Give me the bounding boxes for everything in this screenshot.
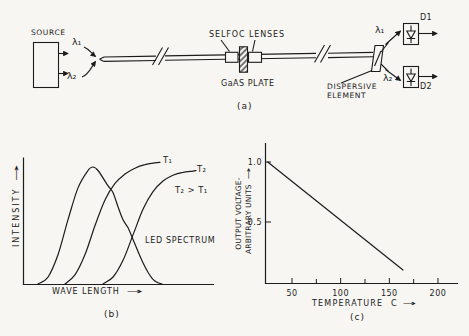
caption-a: (a) bbox=[237, 101, 253, 111]
temperature-axis-label-text: TEMPERATURE C bbox=[312, 299, 398, 308]
selfoc-lens-right bbox=[249, 52, 262, 62]
gaas-plate bbox=[240, 47, 248, 72]
lambda1-source-label: λ₁ bbox=[72, 37, 81, 48]
figure: 501001502001.00.5 SOURCE λ₁ λ₂ SELFOC LE… bbox=[0, 0, 469, 336]
output-voltage-axis-label-line1: OUTPUT VOLTAGE- bbox=[234, 152, 244, 276]
intensity-axis-arrow-icon: → bbox=[12, 165, 21, 181]
detector-d1-label: D1 bbox=[420, 13, 432, 22]
output-voltage-axis-label: OUTPUT VOLTAGE- ARBITRARY UNITS→ bbox=[234, 152, 253, 276]
curve-t2-label: T₂ bbox=[197, 165, 206, 175]
source-box bbox=[34, 43, 59, 88]
curve-t1-label: T₁ bbox=[163, 156, 172, 166]
t2-greater-t1-annotation: T₂ > T₁ bbox=[175, 186, 208, 196]
intensity-axis-label-text: INTENSITY bbox=[12, 188, 21, 247]
output-voltage-axis-label-line2-text: ARBITRARY UNITS bbox=[243, 184, 252, 254]
source-label: SOURCE bbox=[31, 29, 66, 38]
detector-d2-label: D2 bbox=[420, 82, 432, 91]
temperature-axis-arrow-icon: → bbox=[403, 299, 416, 308]
wavelength-axis-label-text: WAVE LENGTH bbox=[52, 287, 120, 296]
x-tick-label: 200 bbox=[430, 289, 447, 298]
x-tick-label: 50 bbox=[286, 289, 297, 298]
x-tick-label: 100 bbox=[332, 289, 349, 298]
curve-output voltage bbox=[268, 162, 403, 270]
lambda1-coupling-curve bbox=[84, 47, 96, 57]
caption-c: (c) bbox=[350, 312, 365, 322]
output-voltage-axis-label-line2: ARBITRARY UNITS→ bbox=[243, 152, 253, 276]
panel-c-ticks: 501001502001.00.5 bbox=[248, 158, 447, 298]
panel-b-axes bbox=[24, 158, 215, 285]
x-tick-label: 150 bbox=[381, 289, 398, 298]
selfoc-leader-right bbox=[253, 40, 256, 52]
fiber-input-tip bbox=[100, 57, 105, 61]
wavelength-axis-arrow-icon: → bbox=[127, 287, 143, 296]
lambda2-dispersed-label: λ₂ bbox=[383, 73, 392, 84]
gaas-plate-label: GaAS PLATE bbox=[221, 79, 274, 88]
dispersive-element-label-line2: ELEMENT bbox=[327, 92, 366, 101]
output-voltage-axis-arrow-icon: → bbox=[243, 167, 253, 179]
fiber-break-mark-2 bbox=[315, 45, 331, 63]
lambda2-source-label: λ₂ bbox=[67, 71, 76, 82]
curve-T₁ bbox=[65, 162, 160, 284]
lambda2-coupling-curve bbox=[82, 62, 96, 78]
panel-b-curves bbox=[38, 162, 196, 284]
wavelength-axis-label: WAVE LENGTH→ bbox=[52, 287, 133, 296]
temperature-axis-label: TEMPERATURE C→ bbox=[312, 299, 410, 308]
selfoc-lenses-label: SELFOC LENSES bbox=[209, 30, 285, 39]
caption-b: (b) bbox=[104, 309, 120, 319]
curve-LED SPECTRUM bbox=[38, 167, 162, 284]
lambda1-dispersed-label: λ₁ bbox=[375, 25, 384, 36]
panel-c-curve bbox=[268, 162, 403, 270]
selfoc-leader-left bbox=[221, 40, 230, 52]
led-spectrum-label: LED SPECTRUM bbox=[145, 236, 215, 245]
selfoc-lens-left bbox=[226, 52, 239, 62]
panel-c-axes bbox=[266, 143, 459, 284]
intensity-axis-label: INTENSITY→ bbox=[12, 151, 21, 271]
